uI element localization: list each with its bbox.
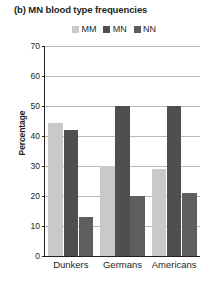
y-tick-label-0: 0 [35, 252, 40, 261]
x-axis-labels: DunkersGermansAmericans [45, 260, 203, 276]
bar-americans-mm [152, 169, 167, 256]
x-label-americans: Americans [152, 260, 197, 270]
legend-label-mm: MM [82, 25, 97, 34]
bar-dunkers-mn [64, 130, 79, 256]
y-tick-label-60: 60 [31, 72, 40, 81]
plot-frame: 010203040506070 [45, 46, 200, 256]
chart-title: (b) MN blood type frequencies [14, 4, 147, 15]
gridline-60 [45, 76, 200, 77]
y-axis-title: Percentage [17, 98, 27, 168]
y-tick-label-20: 20 [31, 192, 40, 201]
y-axis-line [44, 46, 45, 256]
legend-item-mm: MM [72, 25, 96, 34]
y-tick-label-30: 30 [31, 162, 40, 171]
chart-legend: MMMNNN [72, 25, 156, 34]
plot-area: 010203040506070 [45, 46, 200, 256]
legend-item-nn: NN [134, 25, 156, 34]
bar-americans-nn [182, 193, 197, 256]
y-tick-label-70: 70 [31, 42, 40, 51]
bar-dunkers-mm [48, 123, 63, 257]
y-tick-label-40: 40 [31, 132, 40, 141]
bar-germans-nn [130, 196, 145, 256]
x-label-germans: Germans [103, 260, 142, 270]
legend-swatch-mn [103, 26, 110, 33]
legend-swatch-mm [72, 26, 79, 33]
bar-germans-mn [115, 106, 130, 256]
y-tick-label-10: 10 [31, 222, 40, 231]
gridline-70 [45, 46, 200, 47]
legend-label-nn: NN [143, 25, 156, 34]
x-label-dunkers: Dunkers [53, 260, 88, 270]
bar-germans-mm [100, 166, 115, 256]
bar-dunkers-nn [79, 217, 94, 256]
legend-item-mn: MN [103, 25, 126, 34]
x-axis-line [44, 256, 200, 257]
bar-americans-mn [167, 106, 182, 256]
y-tick-label-50: 50 [31, 102, 40, 111]
legend-swatch-nn [134, 26, 141, 33]
legend-label-mn: MN [113, 25, 127, 34]
